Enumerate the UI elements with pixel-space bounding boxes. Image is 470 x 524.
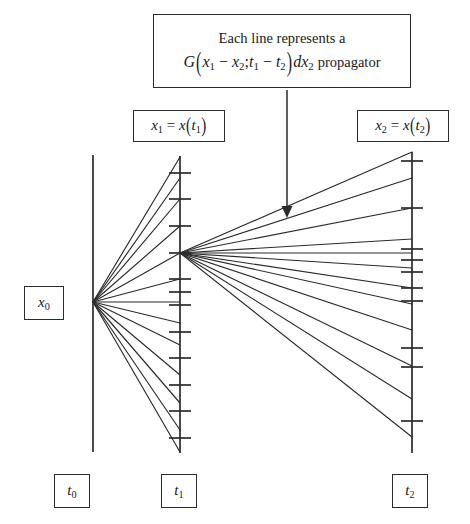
annotation-arrow-head xyxy=(282,206,293,218)
x1-label-box: x1 = x(t1) xyxy=(133,110,225,142)
x1-equals: = xyxy=(163,117,179,133)
x2-label-box: x2 = x(t2) xyxy=(357,110,449,142)
annotation-formula: G(x1 − x2;t1 − t2)dx2propagator xyxy=(184,52,381,74)
diagram-canvas: Each line represents a G(x1 − x2;t1 − t2… xyxy=(0,0,470,524)
x1-rhs-open: ( xyxy=(186,111,191,138)
formula-minus-2: − xyxy=(259,53,276,70)
x1-lhs-var: x xyxy=(151,117,158,133)
t1-sub: 1 xyxy=(179,489,184,500)
fan-t1-to-t2-line-10 xyxy=(180,253,412,399)
x0-var: x xyxy=(38,294,45,310)
formula-x1: x xyxy=(202,53,209,70)
formula-trailing-word: propagator xyxy=(318,54,381,70)
x0-sub: 0 xyxy=(45,301,50,312)
x2-rhs-sub: 2 xyxy=(420,124,425,135)
x0-label-math: x0 xyxy=(38,293,50,314)
x1-label-math: x1 = x(t1) xyxy=(151,116,207,137)
t1-label-box: t1 xyxy=(161,474,197,508)
fan-t0-to-t1-line-11 xyxy=(93,302,180,430)
x2-lhs-var: x xyxy=(375,117,382,133)
propagator-annotation-box: Each line represents a G(x1 − x2;t1 − t2… xyxy=(153,14,411,88)
annotation-arrow xyxy=(282,90,293,218)
x1-rhs-close: ) xyxy=(201,111,206,138)
x2-rhs-open: ( xyxy=(410,111,415,138)
formula-dx: dx xyxy=(293,53,308,70)
fan-t1-to-t2-line-1 xyxy=(180,178,412,253)
formula-G: G xyxy=(184,53,196,70)
formula-dx-sub: 2 xyxy=(308,60,313,72)
annotation-line-1: Each line represents a xyxy=(219,29,346,47)
fan-t0-to-t1 xyxy=(93,157,180,452)
fan-t0-to-t1-line-4 xyxy=(93,253,180,302)
t2-label-box: t2 xyxy=(392,474,428,508)
fan-t0-to-t1-line-1 xyxy=(93,178,180,302)
fan-t0-to-t1-line-2 xyxy=(93,199,180,302)
fan-t1-to-t2-line-8 xyxy=(180,253,412,330)
formula-close-paren: ) xyxy=(287,45,292,79)
t0-sub: 0 xyxy=(72,489,77,500)
formula-minus-1: − xyxy=(215,53,232,70)
formula-t2-sub: 2 xyxy=(280,60,285,72)
t1-label-math: t1 xyxy=(174,481,183,502)
x2-equals: = xyxy=(387,117,403,133)
x0-label-box: x0 xyxy=(24,286,64,320)
x2-rhs-fn: x xyxy=(403,117,410,133)
x1-rhs-fn: x xyxy=(179,117,186,133)
t1-axis-group xyxy=(169,156,191,453)
fan-t0-to-t1-line-10 xyxy=(93,302,180,403)
t0-label-math: t0 xyxy=(67,481,76,502)
x2-label-math: x2 = x(t2) xyxy=(375,116,431,137)
x2-rhs-close: ) xyxy=(425,111,430,138)
t2-sub: 2 xyxy=(410,489,415,500)
t2-label-math: t2 xyxy=(405,481,414,502)
x1-rhs-sub: 1 xyxy=(196,124,201,135)
fan-t0-to-t1-line-12 xyxy=(93,302,180,452)
fan-t1-to-t2-line-11 xyxy=(180,253,412,437)
fan-t1-to-t2 xyxy=(180,152,412,437)
formula-open-paren: ( xyxy=(196,45,201,79)
fan-t1-to-t2-line-0 xyxy=(180,152,412,253)
fan-t0-to-t1-line-0 xyxy=(93,157,180,302)
t0-label-box: t0 xyxy=(54,474,90,508)
